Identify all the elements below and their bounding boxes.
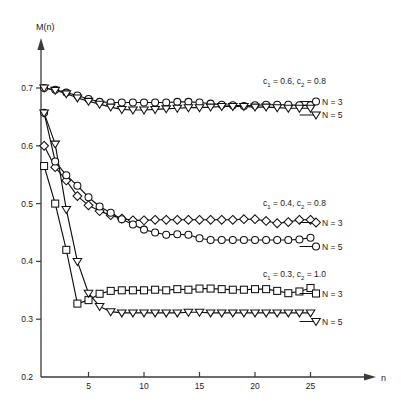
data-point-group-c1-04-1-22 [285,237,292,244]
data-point-group-c1-03-0-2 [63,246,70,253]
data-point-group-c1-04-0-12 [173,215,182,224]
legend-marker-square [313,290,320,297]
annotation-group-c1-04: c1 = 0.4, c2 = 0.8 [263,198,326,210]
y-tick-label: 0.5 [21,199,33,209]
data-point-group-c1-04-1-1 [52,158,59,165]
data-point-group-c1-04-0-18 [240,215,249,224]
data-point-group-c1-04-1-5 [96,203,103,210]
data-point-group-c1-04-1-24 [307,234,314,241]
data-point-group-c1-04-1-10 [152,229,159,236]
data-point-group-c1-04-0-10 [151,215,160,224]
annotation-group-c1-06: c1 = 0.6, c2 = 0.8 [263,76,326,88]
data-point-group-c1-03-0-10 [152,286,159,293]
data-point-group-c1-04-0-9 [140,216,149,225]
x-axis-arrow [364,374,376,381]
data-point-group-c1-03-0-8 [129,287,136,294]
y-tick-label: 0.7 [21,83,33,93]
data-point-group-c1-03-0-20 [263,286,270,293]
series-legend-label-3: N = 5 [322,242,343,252]
data-point-group-c1-04-1-21 [274,237,281,244]
data-point-group-c1-04-1-9 [141,226,148,233]
data-point-group-c1-04-1-7 [118,216,125,223]
x-axis-title: n [381,373,386,383]
data-point-group-c1-04-0-16 [217,215,226,224]
x-tick-label: 20 [250,381,260,391]
data-point-group-c1-04-1-17 [229,237,236,244]
data-point-group-c1-04-1-15 [207,237,214,244]
data-point-group-c1-04-1-18 [240,237,247,244]
data-point-group-c1-04-0-15 [206,215,215,224]
data-point-group-c1-03-0-18 [240,286,247,293]
y-tick-label: 0.3 [21,314,33,324]
data-point-group-c1-03-0-9 [141,287,148,294]
data-point-group-c1-03-1-5 [95,304,104,311]
annotation-group-c1-03: c1 = 0.3, c2 = 1.0 [263,269,326,281]
y-tick-label: 0.6 [21,141,33,151]
data-point-group-c1-03-0-5 [96,290,103,297]
data-point-group-c1-03-0-21 [274,287,281,294]
data-point-group-c1-06-0-10 [152,99,159,106]
series-legend-label-1: N = 5 [322,110,343,120]
data-point-group-c1-03-0-3 [74,300,81,307]
data-point-group-c1-04-1-14 [196,235,203,242]
data-point-group-c1-04-0-13 [184,215,193,224]
data-point-group-c1-03-0-7 [118,287,125,294]
series-legend-label-0: N = 3 [322,97,343,107]
data-point-group-c1-03-0-22 [285,290,292,297]
legend-marker-circle [313,98,320,105]
data-point-group-c1-04-0-19 [251,215,260,224]
data-point-group-c1-03-0-12 [174,286,181,293]
data-point-group-c1-06-0-7 [118,99,125,106]
series-line-group-c1-04-0 [44,146,310,223]
data-point-group-c1-04-1-12 [174,231,181,238]
data-point-group-c1-04-1-16 [218,237,225,244]
data-point-group-c1-03-0-16 [218,286,225,293]
x-tick-label: 10 [139,381,149,391]
data-point-group-c1-06-0-11 [163,99,170,106]
data-point-group-c1-03-0-0 [41,163,48,170]
data-point-group-c1-03-0-1 [52,200,59,207]
data-point-group-c1-03-1-3 [73,258,82,265]
data-point-group-c1-04-0-14 [195,215,204,224]
data-point-group-c1-03-0-13 [185,286,192,293]
data-point-group-c1-03-0-17 [229,286,236,293]
data-point-group-c1-04-1-13 [185,231,192,238]
data-point-group-c1-04-0-17 [228,215,237,224]
data-point-group-c1-03-0-11 [163,287,170,294]
x-tick-label: 25 [306,381,316,391]
data-point-group-c1-06-0-9 [141,99,148,106]
series-legend-label-2: N = 3 [322,218,343,228]
data-point-group-c1-04-1-2 [63,172,70,179]
data-point-group-c1-04-1-11 [163,231,170,238]
data-point-group-c1-04-1-3 [74,182,81,189]
data-point-group-c1-03-0-15 [207,285,214,292]
data-point-group-c1-04-1-23 [296,236,303,243]
x-tick-label: 15 [195,381,205,391]
data-point-group-c1-04-0-21 [273,219,282,228]
series-legend-label-4: N = 3 [322,289,343,299]
data-point-group-c1-06-0-12 [174,98,181,105]
chart-figure: 0.20.30.40.50.60.7510152025 M(n)nc1 = 0.… [0,0,401,415]
x-tick-label: 5 [86,381,91,391]
y-axis-title: M(n) [36,22,55,32]
series-line-group-c1-03-1 [44,113,310,313]
series-legend-label-5: N = 5 [322,317,343,327]
data-point-group-c1-03-1-2 [62,206,71,213]
chart-canvas: 0.20.30.40.50.60.7510152025 M(n)nc1 = 0.… [0,0,401,415]
data-point-group-c1-04-1-6 [107,209,114,216]
data-point-group-c1-04-1-4 [85,194,92,201]
y-tick-label: 0.2 [21,372,33,382]
data-point-group-c1-03-0-14 [196,285,203,292]
data-point-group-c1-04-0-11 [162,215,171,224]
data-point-group-c1-04-1-20 [263,237,270,244]
data-point-group-c1-04-1-19 [252,237,259,244]
data-point-group-c1-04-0-20 [262,217,271,226]
data-point-group-c1-04-0-22 [284,218,293,227]
legend-marker-circle [313,243,320,250]
y-axis-arrow [37,38,44,50]
data-point-group-c1-03-0-6 [107,287,114,294]
data-point-group-c1-06-0-8 [129,99,136,106]
y-tick-label: 0.4 [21,256,33,266]
data-point-group-c1-04-1-8 [129,221,136,228]
data-point-group-c1-03-0-19 [252,286,259,293]
